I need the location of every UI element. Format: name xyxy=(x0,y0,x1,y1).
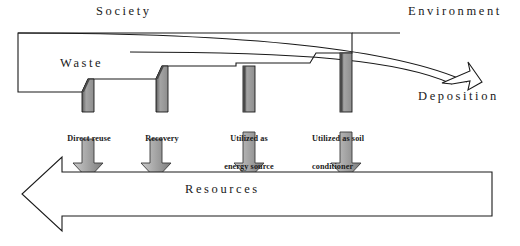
diagram-canvas: Society Environment Waste Deposition Res… xyxy=(0,0,520,246)
stream-label-line2: conditioner xyxy=(312,162,384,171)
stream-label-line1: Utilized as soil xyxy=(312,134,384,143)
stream-label-energy-source: Utilized as energy source xyxy=(219,116,279,190)
label-environment: Environment xyxy=(408,4,502,19)
stream-label-line1: Utilized as xyxy=(219,134,279,143)
stream-label-line1: Direct reuse xyxy=(58,134,120,143)
label-waste: Waste xyxy=(60,56,103,71)
label-society: Society xyxy=(96,4,152,19)
stream-label-line1: Recovery xyxy=(134,134,190,143)
stream-bar-soil-conditioner xyxy=(340,53,352,112)
stream-label-soil-conditioner: Utilized as soil conditioner xyxy=(312,116,384,190)
label-deposition: Deposition xyxy=(418,89,499,104)
stream-label-line2: energy source xyxy=(219,162,279,171)
stream-label-direct-reuse: Direct reuse xyxy=(58,116,120,180)
stream-label-recovery: Recovery xyxy=(134,116,190,180)
stream-bar-energy-source xyxy=(243,66,255,112)
